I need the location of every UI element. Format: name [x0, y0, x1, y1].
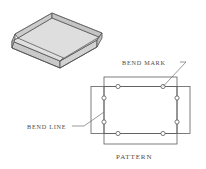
- isometric-box-figure: [12, 13, 102, 68]
- bend-mark-top-left: [116, 84, 120, 88]
- pattern-caption: PATTERN: [116, 153, 152, 161]
- bend-mark-left-upper: [102, 96, 106, 100]
- pattern-rect-vertical: [104, 77, 177, 144]
- bend-line-label: BEND LINE: [27, 123, 66, 130]
- pattern-rect-horizontal: [91, 87, 190, 134]
- bend-mark-label: BEND MARK: [122, 59, 166, 66]
- bend-mark-right-lower: [175, 120, 179, 124]
- drawing-canvas: BEND MARK BEND LINE PATTERN: [0, 0, 206, 169]
- bend-mark-bottom-left: [116, 131, 120, 135]
- technical-drawing: BEND MARK BEND LINE PATTERN: [0, 0, 206, 169]
- bend-mark-bottom-right: [161, 131, 165, 135]
- bend-mark-right-upper: [175, 96, 179, 100]
- bend-line-leader-line: [72, 112, 104, 126]
- flat-pattern-figure: [91, 77, 190, 144]
- bend-mark-left-lower: [102, 120, 106, 124]
- bend-mark-leader-line: [163, 62, 186, 87]
